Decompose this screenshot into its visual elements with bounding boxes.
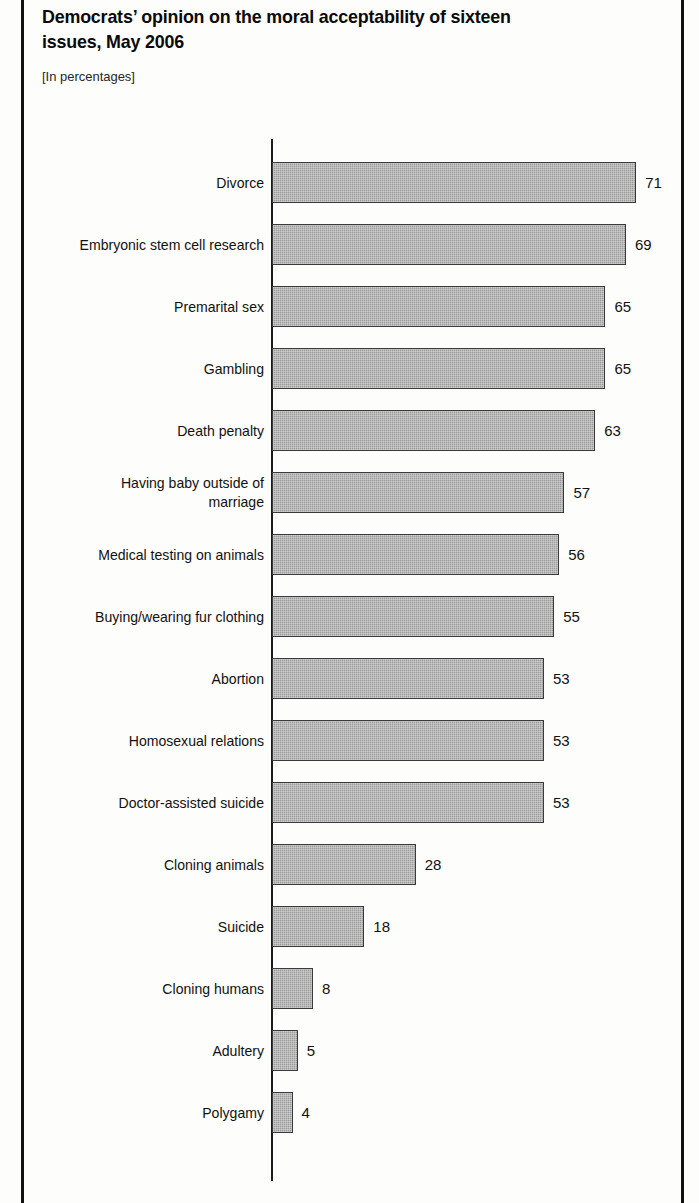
- bar-row: Premarital sex65: [0, 286, 699, 327]
- bar-category-label: Cloning humans: [43, 979, 264, 998]
- bar-value-label: 18: [373, 918, 390, 936]
- bar-category-label-line: Death penalty: [43, 421, 264, 440]
- bar: [272, 1092, 293, 1133]
- bar-category-label-line: Embryonic stem cell research: [43, 235, 264, 254]
- bar-value-label: 55: [563, 608, 580, 626]
- bar-category-label: Having baby outside ofmarriage: [43, 474, 264, 512]
- bar: [272, 720, 544, 761]
- bar-category-label: Death penalty: [43, 421, 264, 440]
- bar: [272, 658, 544, 699]
- bar-value-label: 71: [645, 174, 662, 192]
- bar-category-label: Premarital sex: [43, 297, 264, 316]
- bar: [272, 410, 595, 451]
- bar-category-label: Divorce: [43, 173, 264, 192]
- bar-value-label: 53: [553, 670, 570, 688]
- bar-value-label: 69: [635, 236, 652, 254]
- bar-category-label-line: Premarital sex: [43, 297, 264, 316]
- bar-row: Doctor-assisted suicide53: [0, 782, 699, 823]
- bar: [272, 224, 626, 265]
- bar-category-label: Embryonic stem cell research: [43, 235, 264, 254]
- bar-category-label: Adultery: [43, 1041, 264, 1060]
- bar-row: Homosexual relations53: [0, 720, 699, 761]
- bar-category-label-line: Doctor-assisted suicide: [43, 793, 264, 812]
- plot-area: Divorce71Embryonic stem cell research69P…: [0, 0, 699, 1203]
- bar-value-label: 65: [614, 360, 631, 378]
- bar-category-label-line: Buying/wearing fur clothing: [43, 607, 264, 626]
- bar-value-label: 65: [614, 298, 631, 316]
- bar-category-label-line: Gambling: [43, 359, 264, 378]
- bar-row: Adultery5: [0, 1030, 699, 1071]
- bar-category-label: Polygamy: [43, 1103, 264, 1122]
- bar-value-label: 57: [573, 484, 590, 502]
- bar-category-label: Abortion: [43, 669, 264, 688]
- bar-value-label: 53: [553, 794, 570, 812]
- bar-category-label-line: Medical testing on animals: [43, 545, 264, 564]
- bar-value-label: 8: [322, 980, 330, 998]
- bar-value-label: 28: [425, 856, 442, 874]
- bar: [272, 782, 544, 823]
- bar-value-label: 53: [553, 732, 570, 750]
- bar-category-label-line: Abortion: [43, 669, 264, 688]
- bar-category-label-line: Cloning humans: [43, 979, 264, 998]
- bar-row: Abortion53: [0, 658, 699, 699]
- bar: [272, 534, 559, 575]
- chart-figure: Democrats’ opinion on the moral acceptab…: [0, 0, 699, 1203]
- bar: [272, 906, 364, 947]
- bar-row: Having baby outside ofmarriage57: [0, 472, 699, 513]
- bar-category-label: Suicide: [43, 917, 264, 936]
- bar-category-label: Doctor-assisted suicide: [43, 793, 264, 812]
- bar-row: Death penalty63: [0, 410, 699, 451]
- bar-category-label: Cloning animals: [43, 855, 264, 874]
- bar: [272, 472, 564, 513]
- bar: [272, 348, 605, 389]
- bar-row: Gambling65: [0, 348, 699, 389]
- bar-category-label-line: Divorce: [43, 173, 264, 192]
- bar-row: Suicide18: [0, 906, 699, 947]
- bar-row: Cloning humans8: [0, 968, 699, 1009]
- bar-category-label-line: Having baby outside of: [43, 474, 264, 493]
- bar-row: Polygamy4: [0, 1092, 699, 1133]
- bar-value-label: 56: [568, 546, 585, 564]
- bar: [272, 286, 605, 327]
- bar-category-label: Buying/wearing fur clothing: [43, 607, 264, 626]
- bar-row: Embryonic stem cell research69: [0, 224, 699, 265]
- bar-category-label-line: Adultery: [43, 1041, 264, 1060]
- bar-category-label-line: marriage: [43, 493, 264, 512]
- bar-value-label: 63: [604, 422, 621, 440]
- bar-category-label-line: Polygamy: [43, 1103, 264, 1122]
- bar: [272, 1030, 298, 1071]
- bar-category-label: Homosexual relations: [43, 731, 264, 750]
- bar-row: Medical testing on animals56: [0, 534, 699, 575]
- bar: [272, 162, 636, 203]
- bar-row: Buying/wearing fur clothing55: [0, 596, 699, 637]
- bar: [272, 844, 416, 885]
- bar-row: Divorce71: [0, 162, 699, 203]
- bar: [272, 596, 554, 637]
- bar: [272, 968, 313, 1009]
- bar-row: Cloning animals28: [0, 844, 699, 885]
- bar-category-label: Gambling: [43, 359, 264, 378]
- bar-category-label-line: Homosexual relations: [43, 731, 264, 750]
- bar-value-label: 5: [307, 1042, 315, 1060]
- bar-category-label: Medical testing on animals: [43, 545, 264, 564]
- bar-category-label-line: Cloning animals: [43, 855, 264, 874]
- bar-category-label-line: Suicide: [43, 917, 264, 936]
- bar-value-label: 4: [302, 1104, 310, 1122]
